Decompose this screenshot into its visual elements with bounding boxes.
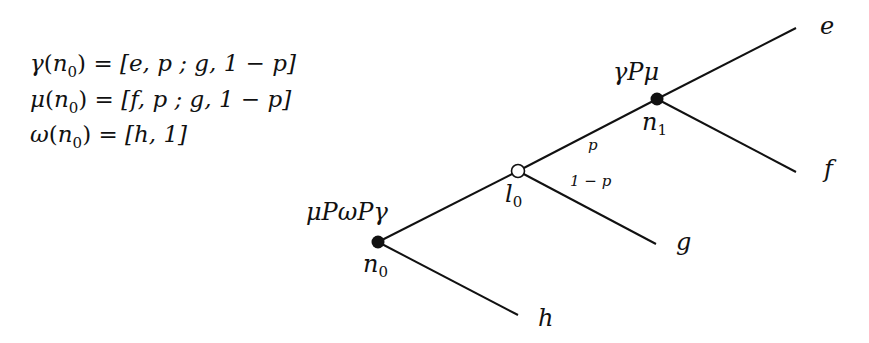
formula-value: [f, p ; g, 1 − p] <box>121 86 291 112</box>
leaf-f-label: f <box>824 155 833 183</box>
formula-arg-sub: 0 <box>69 98 79 116</box>
formula-fn: μ <box>30 86 45 112</box>
decision-tree-diagram: γ(n0) = [e, p ; g, 1 − p] μ(n0) = [f, p … <box>0 0 869 343</box>
node-sub: 1 <box>657 121 667 139</box>
formula-fn: ω <box>30 121 49 147</box>
formula-omega: ω(n0) = [h, 1] <box>30 121 296 157</box>
node-name: n <box>642 108 657 136</box>
l0-name-label: l0 <box>505 180 522 211</box>
formula-arg: n <box>58 121 73 147</box>
leaf-h-label: h <box>538 304 553 332</box>
edge-n0-l0 <box>378 171 518 242</box>
formula-arg-sub: 0 <box>73 134 83 152</box>
chance-node-l0-icon <box>512 165 525 178</box>
edge-n0-h <box>378 242 518 315</box>
leaf-e-label: e <box>820 12 834 40</box>
n0-order-label: μPωPγ <box>306 198 388 226</box>
decision-node-n0-icon <box>372 236 385 249</box>
formula-value: [h, 1] <box>125 121 187 147</box>
formula-fn: γ <box>30 50 44 76</box>
node-sub: 0 <box>513 193 523 211</box>
node-definitions: γ(n0) = [e, p ; g, 1 − p] μ(n0) = [f, p … <box>30 50 296 157</box>
decision-node-n1-icon <box>651 93 664 106</box>
formula-arg-sub: 0 <box>68 63 78 81</box>
formula-value: [e, p ; g, 1 − p] <box>120 50 296 76</box>
n1-order-label: γPμ <box>613 58 659 86</box>
leaf-g-label: g <box>676 228 691 256</box>
formula-gamma: γ(n0) = [e, p ; g, 1 − p] <box>30 50 296 86</box>
formula-arg: n <box>54 86 69 112</box>
edge-n1-f <box>657 99 796 172</box>
prob-p-label: p <box>588 136 598 154</box>
node-name: n <box>363 250 378 278</box>
formula-mu: μ(n0) = [f, p ; g, 1 − p] <box>30 86 296 122</box>
node-sub: 0 <box>378 263 388 281</box>
edge-l0-n1 <box>518 99 657 171</box>
n0-name-label: n0 <box>363 250 388 281</box>
edge-n1-e <box>657 28 796 99</box>
formula-arg: n <box>53 50 68 76</box>
n1-name-label: n1 <box>642 108 667 139</box>
node-name: l <box>505 180 513 208</box>
prob-1-minus-p-label: 1 − p <box>570 172 611 190</box>
